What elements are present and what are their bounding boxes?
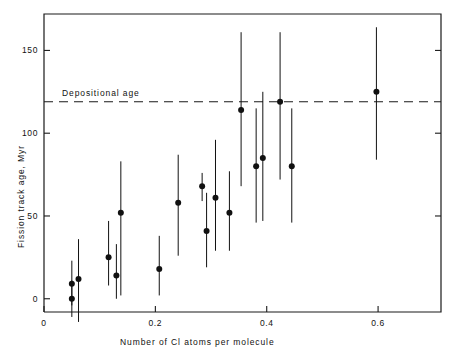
fission-track-age-chart: 00.20.40.6050100150	[0, 0, 454, 357]
data-point	[69, 281, 75, 287]
data-point	[277, 99, 283, 105]
data-point	[238, 107, 244, 113]
x-tick-label: 0	[41, 318, 46, 328]
y-tick-label: 150	[22, 45, 38, 55]
data-point	[199, 183, 205, 189]
y-tick-label: 0	[33, 294, 38, 304]
x-tick-label: 0.4	[260, 318, 274, 328]
data-point	[226, 210, 232, 216]
data-point	[260, 155, 266, 161]
x-tick-label: 0.6	[371, 318, 385, 328]
data-point	[76, 276, 82, 282]
data-point	[289, 163, 295, 169]
data-point	[253, 163, 259, 169]
data-point	[69, 296, 75, 302]
y-tick-label: 50	[27, 211, 38, 221]
data-point	[106, 254, 112, 260]
data-point	[118, 210, 124, 216]
data-point	[113, 273, 119, 279]
chart-background	[0, 0, 454, 357]
y-axis-label: Fission track age, Myr	[16, 145, 26, 248]
depositional-age-label: Depositional age	[62, 88, 140, 98]
y-tick-label: 100	[22, 128, 38, 138]
x-tick-label: 0.2	[149, 318, 163, 328]
data-point	[373, 89, 379, 95]
data-point	[212, 195, 218, 201]
data-point	[175, 200, 181, 206]
x-axis-label: Number of Cl atoms per molecule	[120, 337, 275, 347]
data-point	[156, 266, 162, 272]
data-point	[204, 228, 210, 234]
